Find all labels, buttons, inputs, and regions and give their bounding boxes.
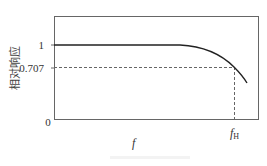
y-axis-label: 相对响应 — [8, 46, 22, 90]
x-axis-label: f — [132, 136, 137, 150]
y-tick-label-0: 0 — [45, 116, 51, 128]
x-tick-label-fh: fH — [230, 126, 239, 141]
y-tick-label-0707: 0.707 — [19, 62, 44, 74]
figure-caption-faint — [110, 156, 190, 159]
fh-sub: H — [233, 132, 239, 141]
response-curve — [54, 45, 247, 83]
y-tick-label-1: 1 — [39, 39, 45, 51]
chart: 1 0.707 0 相对响应 fH f — [0, 0, 267, 166]
